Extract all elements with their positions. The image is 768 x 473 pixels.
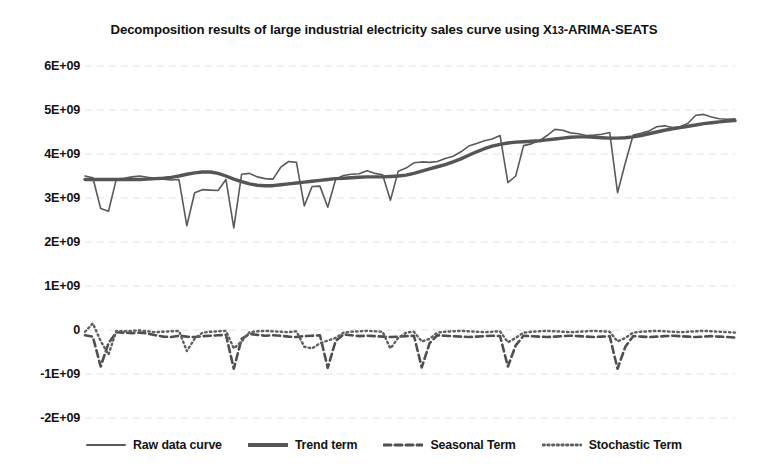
chart-legend: Raw data curveTrend termSeasonal TermSto… bbox=[0, 438, 768, 452]
legend-item[interactable]: Seasonal Term bbox=[383, 438, 515, 452]
chart-container: Decomposition results of large industria… bbox=[0, 0, 768, 473]
series-line bbox=[85, 121, 735, 186]
legend-swatch-dotted bbox=[542, 439, 582, 451]
legend-swatch-dashed bbox=[383, 439, 423, 451]
legend-label: Trend term bbox=[295, 438, 358, 452]
legend-swatch-solid-thin bbox=[86, 439, 126, 451]
legend-label: Raw data curve bbox=[133, 438, 222, 452]
series-line bbox=[85, 323, 735, 354]
legend-label: Stochastic Term bbox=[589, 438, 682, 452]
legend-item[interactable]: Trend term bbox=[248, 438, 358, 452]
legend-item[interactable]: Raw data curve bbox=[86, 438, 222, 452]
series-line bbox=[85, 114, 735, 228]
legend-swatch-solid-thick bbox=[248, 439, 288, 451]
legend-label: Seasonal Term bbox=[430, 438, 515, 452]
legend-item[interactable]: Stochastic Term bbox=[542, 438, 682, 452]
plot-canvas bbox=[0, 0, 768, 473]
